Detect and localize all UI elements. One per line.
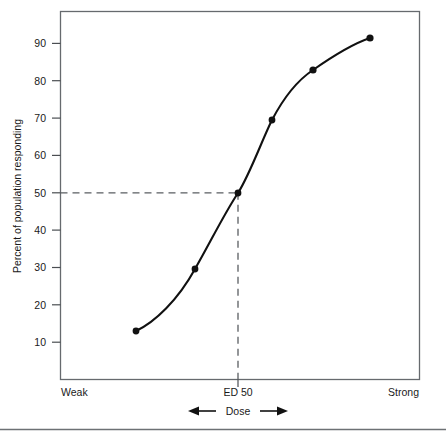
dose-axis-title-group: Dose	[188, 405, 288, 417]
figure-root: 90 80 70 60 50 40 30 20 10 Percent of po…	[0, 0, 446, 439]
y-tick-label-60: 60	[34, 149, 46, 161]
y-axis-title: Percent of population responding	[11, 119, 23, 273]
data-point	[269, 117, 276, 124]
data-point	[366, 34, 373, 41]
x-label-ed50: ED 50	[223, 386, 252, 398]
data-point	[133, 328, 140, 335]
dose-response-chart: 90 80 70 60 50 40 30 20 10 Percent of po…	[0, 0, 446, 439]
x-axis-title: Dose	[226, 405, 251, 417]
y-tick-label-90: 90	[34, 37, 46, 49]
x-label-weak: Weak	[61, 386, 88, 398]
y-axis-ticks	[52, 43, 61, 342]
y-tick-label-40: 40	[34, 224, 46, 236]
data-point	[192, 266, 199, 273]
data-point	[309, 66, 316, 73]
dose-response-curve	[136, 38, 370, 331]
y-tick-label-70: 70	[34, 112, 46, 124]
y-tick-label-10: 10	[34, 336, 46, 348]
y-tick-label-50: 50	[34, 187, 46, 199]
data-point	[235, 190, 242, 197]
y-tick-label-30: 30	[34, 261, 46, 273]
right-arrow-icon	[277, 407, 288, 416]
data-point-markers	[133, 34, 374, 334]
y-tick-label-20: 20	[34, 299, 46, 311]
y-tick-label-80: 80	[34, 75, 46, 87]
left-arrow-icon	[188, 407, 199, 416]
x-label-strong: Strong	[388, 386, 419, 398]
